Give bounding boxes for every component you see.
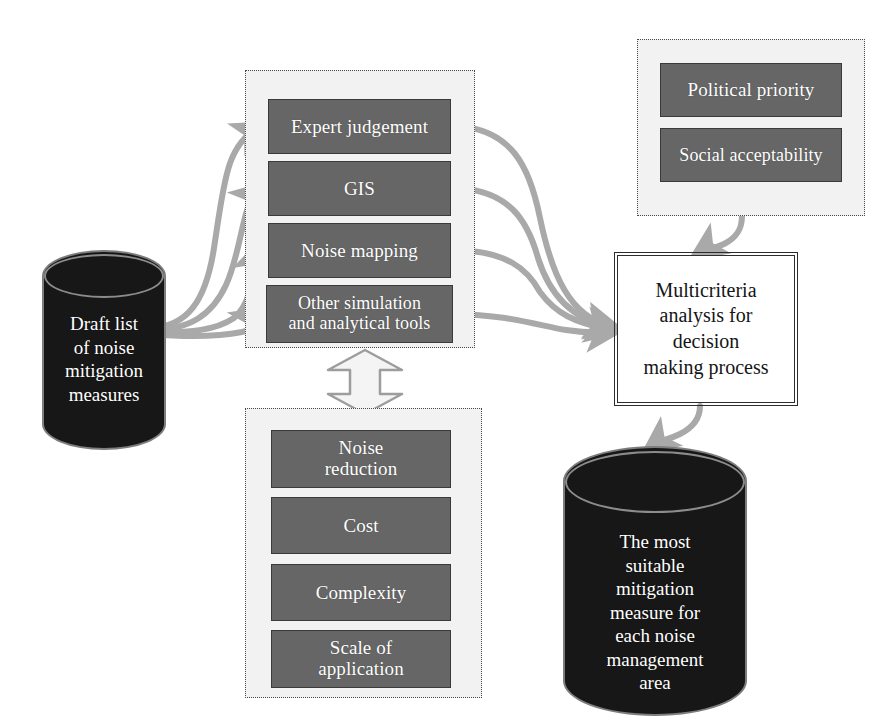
connector-analysis-to-result [652, 406, 700, 446]
draft-list-line-4: measures [42, 383, 166, 407]
factor-box-political-priority[interactable]: Political priority [660, 63, 842, 117]
criteria-box-complexity[interactable]: Complexity [271, 564, 451, 621]
tool-box-expert-judgement-label: Expert judgement [291, 116, 428, 137]
draft-list-line-3: mitigation [42, 359, 166, 383]
criteria-scale-line-1: Scale of [330, 637, 393, 658]
result-line-4: measure for [563, 601, 747, 625]
criteria-noise-reduction-line-1: Noise [339, 437, 384, 458]
criteria-box-cost-label: Cost [343, 515, 378, 536]
tool-box-other-tools-line-1: Other simulation [298, 293, 421, 313]
multicriteria-line-4: making process [644, 356, 769, 378]
result-line-6: management [563, 648, 747, 672]
result-cylinder-top-ellipse [565, 451, 745, 513]
result-line-3: mitigation [563, 577, 747, 601]
result-cylinder-label: The most suitable mitigation measure for… [563, 530, 747, 695]
tool-box-expert-judgement[interactable]: Expert judgement [268, 99, 451, 154]
multicriteria-line-3: decision [673, 330, 740, 352]
tool-box-noise-mapping-label: Noise mapping [301, 240, 418, 261]
criteria-scale-line-2: application [318, 658, 404, 679]
tools-criteria-double-arrow [322, 348, 408, 416]
criteria-box-cost[interactable]: Cost [271, 497, 451, 554]
draft-list-cylinder: Draft list of noise mitigation measures [42, 250, 166, 450]
criteria-box-noise-reduction-label: Noise reduction [325, 438, 398, 480]
tool-box-other-tools-line-2: and analytical tools [289, 313, 431, 333]
criteria-box-complexity-label: Complexity [316, 582, 407, 603]
connector-source-to-gis [150, 190, 258, 330]
tool-box-other-tools[interactable]: Other simulation and analytical tools [266, 285, 453, 343]
connector-source-to-expert-judgement [150, 128, 258, 328]
result-line-1: The most [563, 530, 747, 554]
criteria-box-scale-of-application-label: Scale of application [318, 638, 404, 680]
draft-list-cylinder-label: Draft list of noise mitigation measures [42, 312, 166, 406]
criteria-box-noise-reduction[interactable]: Noise reduction [271, 430, 451, 488]
tool-box-gis[interactable]: GIS [268, 161, 451, 216]
result-line-2: suitable [563, 554, 747, 578]
factor-box-social-acceptability-label: Social acceptability [679, 145, 822, 165]
tool-box-noise-mapping[interactable]: Noise mapping [268, 223, 451, 278]
connector-source-to-other-tools [150, 314, 258, 336]
draft-list-line-2: of noise [42, 336, 166, 360]
multicriteria-analysis-box[interactable]: Multicriteria analysis for decision maki… [617, 255, 795, 403]
criteria-box-scale-of-application[interactable]: Scale of application [271, 630, 451, 688]
factor-box-social-acceptability[interactable]: Social acceptability [660, 128, 842, 182]
multicriteria-line-2: analysis for [660, 304, 753, 326]
factor-box-political-priority-label: Political priority [688, 79, 815, 100]
result-line-5: each noise [563, 624, 747, 648]
multicriteria-analysis-label: Multicriteria analysis for decision maki… [644, 278, 769, 380]
result-cylinder: The most suitable mitigation measure for… [563, 446, 747, 716]
draft-list-line-1: Draft list [42, 312, 166, 336]
result-line-7: area [563, 671, 747, 695]
diagram-canvas: Draft list of noise mitigation measures … [0, 0, 892, 728]
tool-box-other-tools-label: Other simulation and analytical tools [289, 294, 431, 334]
tool-box-gis-label: GIS [344, 178, 375, 199]
connector-factors-to-analysis [700, 216, 742, 252]
cylinder-top-ellipse [44, 254, 164, 298]
multicriteria-line-1: Multicriteria [655, 279, 756, 301]
connector-source-to-noise-mapping [150, 250, 258, 332]
criteria-noise-reduction-line-2: reduction [325, 458, 398, 479]
